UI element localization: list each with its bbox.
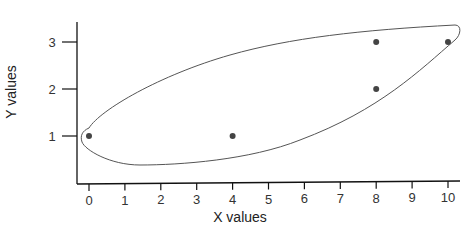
y-ticks: 123 bbox=[48, 35, 77, 144]
x-tick-label: 3 bbox=[193, 192, 200, 207]
x-tick-label: 8 bbox=[373, 191, 380, 206]
x-tick-label: 9 bbox=[408, 190, 415, 205]
y-axis-label: Y values bbox=[3, 65, 19, 118]
scatter-chart: 123 012345678910 X values Y values bbox=[0, 0, 469, 230]
x-tick-label: 1 bbox=[121, 193, 128, 208]
data-point bbox=[445, 39, 451, 45]
enclosing-loop bbox=[81, 25, 460, 165]
x-tick-label: 7 bbox=[337, 191, 344, 206]
data-point bbox=[373, 86, 379, 92]
x-tick-label: 6 bbox=[301, 191, 308, 206]
data-point bbox=[373, 39, 379, 45]
x-tick-label: 4 bbox=[229, 192, 236, 207]
x-axis-label: X values bbox=[213, 209, 267, 225]
data-point bbox=[86, 133, 92, 139]
x-ticks: 012345678910 bbox=[85, 181, 455, 208]
x-tick-label: 5 bbox=[265, 192, 272, 207]
x-tick-label: 0 bbox=[85, 193, 92, 208]
y-tick-label: 3 bbox=[48, 35, 55, 50]
y-tick-label: 2 bbox=[48, 82, 55, 97]
x-tick-label: 2 bbox=[157, 192, 164, 207]
y-tick-label: 1 bbox=[48, 129, 55, 144]
x-tick-label: 10 bbox=[441, 190, 455, 205]
data-point bbox=[230, 133, 236, 139]
